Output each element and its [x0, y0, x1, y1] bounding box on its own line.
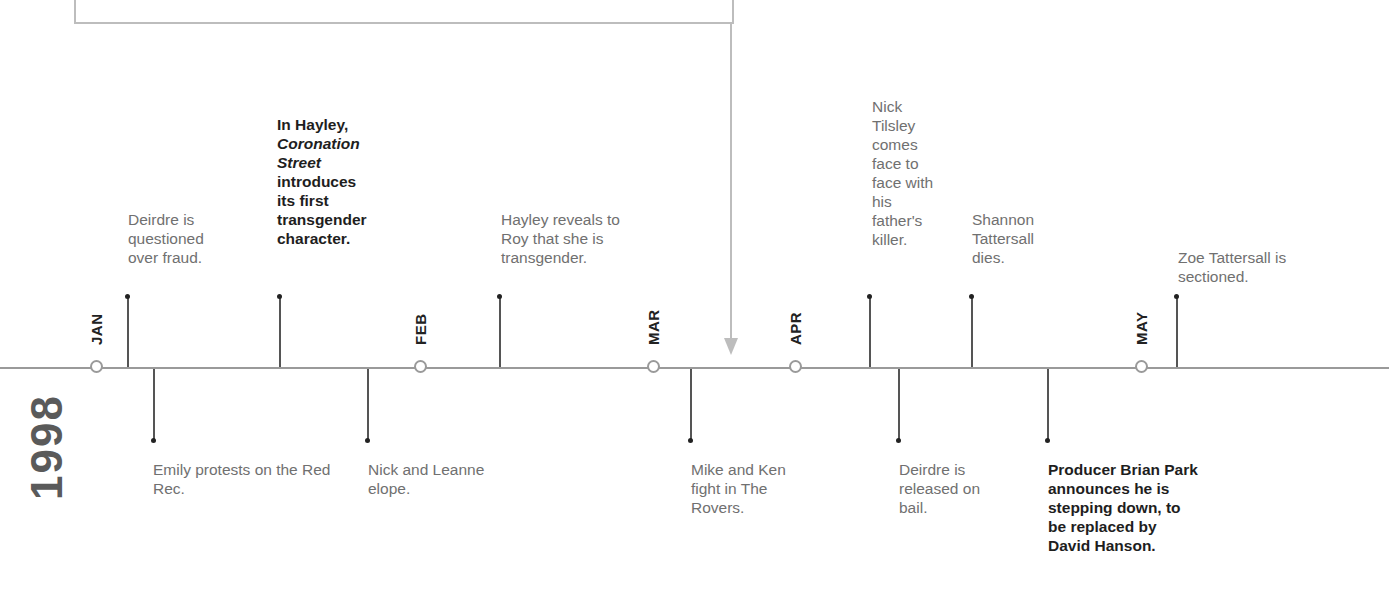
event-dot — [125, 294, 130, 299]
event-deirdre-released: Deirdre is released on bail. — [899, 460, 989, 517]
event-dot — [151, 438, 156, 443]
event-stem — [898, 369, 900, 439]
event-emily-protests: Emily protests on the Red Rec. — [153, 460, 333, 498]
event-hayley-introduced: In Hayley, Coronation Street introduces … — [277, 115, 377, 248]
event-hayley-reveals: Hayley reveals to Roy that she is transg… — [501, 210, 636, 267]
month-node-apr — [789, 360, 802, 373]
event-nick-face-to-face: Nick Tilsley comes face to face with his… — [872, 97, 942, 249]
month-label-mar: MAR — [645, 309, 662, 345]
event-dot — [688, 438, 693, 443]
event-mike-ken-fight: Mike and Ken fight in The Rovers. — [691, 460, 791, 517]
month-node-mar — [647, 360, 660, 373]
event-stem — [499, 297, 501, 367]
month-label-jan: JAN — [88, 313, 105, 345]
event-dot — [277, 294, 282, 299]
event-nick-leanne-elope: Nick and Leanne elope. — [368, 460, 508, 498]
event-shannon-dies: Shannon Tattersall dies. — [972, 210, 1052, 267]
month-label-apr: APR — [787, 312, 804, 345]
event-dot — [497, 294, 502, 299]
event-dot — [867, 294, 872, 299]
month-node-jan — [90, 360, 103, 373]
event-dot — [365, 438, 370, 443]
event-dot — [1174, 294, 1179, 299]
event-dot — [896, 438, 901, 443]
event-stem — [1176, 297, 1178, 367]
connector-drop-line — [730, 24, 732, 342]
event-zoe-sectioned: Zoe Tattersall is sectioned. — [1178, 248, 1288, 286]
month-label-may: MAY — [1133, 312, 1150, 345]
event-stem — [971, 297, 973, 367]
event-stem — [127, 297, 129, 367]
connector-line — [74, 0, 734, 24]
event-stem — [367, 369, 369, 439]
event-stem — [153, 369, 155, 439]
event-stem — [1047, 369, 1049, 439]
month-label-feb: FEB — [412, 314, 429, 346]
event-stem — [690, 369, 692, 439]
arrow-down-icon — [724, 338, 738, 356]
event-deirdre-questioned: Deirdre is questioned over fraud. — [128, 210, 228, 267]
year-label: 1998 — [22, 394, 72, 500]
event-stem — [279, 297, 281, 367]
timeline-axis — [0, 367, 1389, 369]
event-stem — [869, 297, 871, 367]
event-brian-park-stepping-down: Producer Brian Park announces he is step… — [1048, 460, 1198, 555]
month-node-may — [1135, 360, 1148, 373]
event-dot — [1045, 438, 1050, 443]
month-node-feb — [414, 360, 427, 373]
event-dot — [969, 294, 974, 299]
